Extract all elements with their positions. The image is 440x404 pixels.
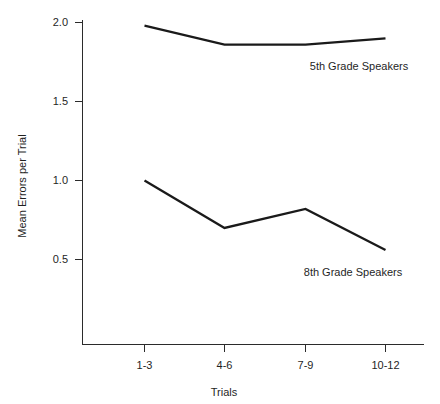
- series-label-8th-grade: 8th Grade Speakers: [304, 266, 403, 278]
- y-tick-label-1-0: 1.0: [53, 174, 68, 186]
- series-label-5th-grade: 5th Grade Speakers: [310, 60, 409, 72]
- x-tick-label-4-6: 4-6: [217, 359, 233, 371]
- chart-canvas: 2.0 1.5 1.0 0.5 Mean Errors per Trial 1-…: [0, 0, 440, 404]
- series-line-5th-grade: [145, 26, 386, 45]
- x-tick-label-10-12: 10-12: [371, 359, 399, 371]
- y-tick-label-0-5: 0.5: [53, 253, 68, 265]
- series-line-8th-grade: [145, 181, 386, 251]
- x-axis-title: Trials: [211, 386, 238, 398]
- y-tick-label-1-5: 1.5: [53, 95, 68, 107]
- x-tick-label-1-3: 1-3: [137, 359, 153, 371]
- x-tick-label-7-9: 7-9: [298, 359, 314, 371]
- line-chart-figure: 2.0 1.5 1.0 0.5 Mean Errors per Trial 1-…: [0, 0, 440, 404]
- y-axis-title: Mean Errors per Trial: [16, 134, 28, 237]
- y-tick-label-2-0: 2.0: [53, 16, 68, 28]
